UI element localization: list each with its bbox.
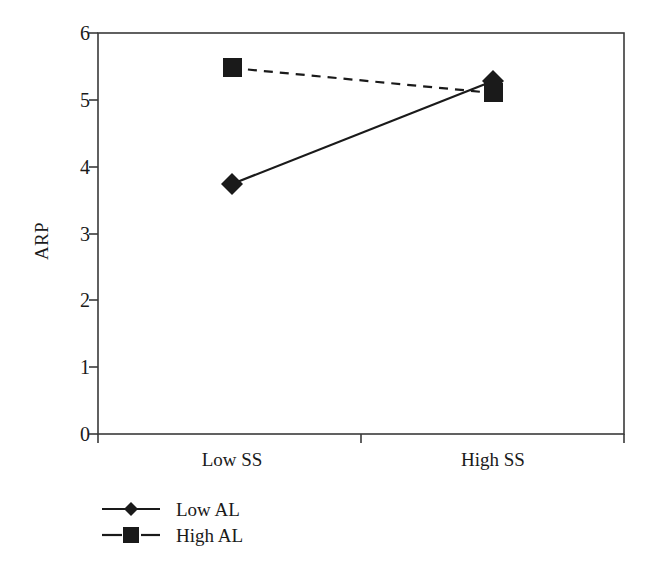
x-axis-ticks — [98, 434, 624, 443]
y-axis-ticks — [89, 33, 98, 434]
series-high-al-marker-low-ss — [223, 58, 242, 77]
interaction-plot: ARP 6 5 4 3 2 1 0 Low SS High SS — [0, 0, 654, 575]
square-marker-icon — [123, 527, 139, 543]
legend-key-low-al — [100, 498, 162, 520]
legend-label-high-al: High AL — [176, 526, 243, 545]
plot-canvas — [0, 0, 654, 575]
legend-item-low-al: Low AL — [100, 496, 243, 522]
series-high-al — [223, 58, 503, 102]
plot-frame — [98, 33, 624, 434]
chart-legend: Low AL High AL — [100, 496, 243, 548]
series-low-al-marker-low-ss — [221, 173, 243, 195]
series-low-al — [221, 70, 504, 195]
legend-item-high-al: High AL — [100, 522, 243, 548]
series-high-al-line — [232, 68, 493, 93]
legend-key-high-al — [100, 524, 162, 546]
series-low-al-line — [232, 81, 493, 184]
diamond-marker-icon — [124, 502, 138, 516]
legend-label-low-al: Low AL — [176, 500, 240, 519]
